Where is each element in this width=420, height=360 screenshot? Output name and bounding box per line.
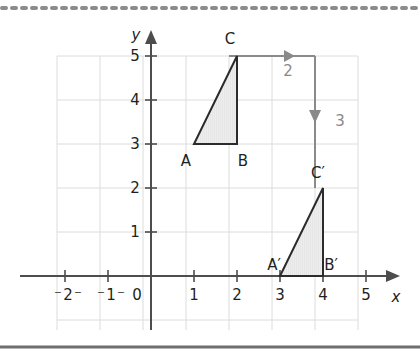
arrowhead-right-icon <box>284 50 295 62</box>
y-axis-arrowhead-icon <box>145 30 157 44</box>
axes <box>20 30 400 330</box>
arrowhead-down-icon <box>309 110 321 123</box>
vertex-label-b: B <box>238 152 248 170</box>
y-tick-label-4: 4 <box>130 91 140 109</box>
translation-label-vertical: 3 <box>335 112 345 130</box>
x-tick-label-neg2-trail: ⁻ <box>74 286 82 304</box>
x-tick-label-2: 2 <box>232 286 242 304</box>
y-tick-label-3: 3 <box>130 135 140 153</box>
x-tick-label-neg1-minus: ⁻ <box>97 286 105 304</box>
x-tick-label-neg2-minus: ⁻ <box>54 286 62 304</box>
x-axis-label: x <box>391 288 401 306</box>
y-tick-label-2: 2 <box>130 179 140 197</box>
y-axis-tick-labels: 1 2 3 4 5 <box>130 47 140 241</box>
coordinate-plane-figure: ⁻ 2 ⁻ ⁻ 1 ⁻ 0 1 2 3 4 5 1 2 3 4 5 x y A <box>0 0 420 360</box>
x-axis-tick-labels: ⁻ 2 ⁻ ⁻ 1 ⁻ 0 1 2 3 4 5 <box>54 286 371 304</box>
vertex-label-c-prime: C′ <box>311 164 325 182</box>
origin-label: 0 <box>132 286 142 304</box>
x-tick-label-5: 5 <box>361 286 371 304</box>
y-tick-label-1: 1 <box>130 223 140 241</box>
vertex-label-a: A <box>181 152 192 170</box>
y-tick-label-5: 5 <box>130 47 140 65</box>
x-tick-label-3: 3 <box>275 286 285 304</box>
x-tick-label-neg2: 2 <box>63 286 73 304</box>
x-tick-label-neg1: 1 <box>106 286 116 304</box>
vertex-label-c: C <box>225 30 235 48</box>
translation-label-horizontal: 2 <box>283 62 293 80</box>
vertex-label-a-prime: A′ <box>267 256 281 274</box>
x-tick-label-neg1-trail: ⁻ <box>117 286 125 304</box>
x-tick-label-4: 4 <box>318 286 328 304</box>
vertex-label-b-prime: B′ <box>324 256 338 274</box>
translation-diagram: ⁻ 2 ⁻ ⁻ 1 ⁻ 0 1 2 3 4 5 1 2 3 4 5 x y A <box>0 0 420 360</box>
x-axis-arrowhead-icon <box>386 270 400 282</box>
y-axis-label: y <box>131 26 142 44</box>
x-tick-label-1: 1 <box>189 286 199 304</box>
